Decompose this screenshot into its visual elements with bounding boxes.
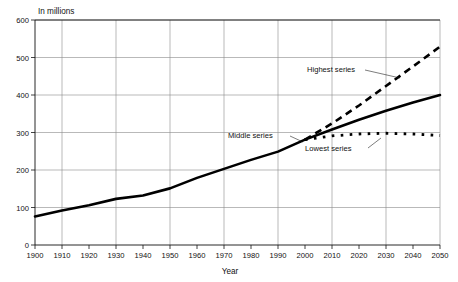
- x-tick-2010: 2010: [324, 251, 341, 260]
- x-tick-2050: 2050: [432, 251, 449, 260]
- y-tick-300: 300: [16, 129, 29, 138]
- x-tick-2000: 2000: [297, 251, 314, 260]
- x-tick-1930: 1930: [108, 251, 125, 260]
- x-tick-1970: 1970: [216, 251, 233, 260]
- unit-label: In millions: [38, 7, 74, 16]
- annotation-lowest-series: Lowest series: [305, 144, 352, 153]
- chart-background: [0, 0, 458, 282]
- x-tick-1960: 1960: [189, 251, 206, 260]
- x-tick-1980: 1980: [243, 251, 260, 260]
- x-tick-1990: 1990: [270, 251, 287, 260]
- x-tick-2030: 2030: [378, 251, 395, 260]
- y-tick-400: 400: [16, 91, 29, 100]
- population-projection-chart: In millions 600 500 400 300 200 100 0 19…: [0, 0, 458, 282]
- x-tick-2020: 2020: [351, 251, 368, 260]
- x-tick-1950: 1950: [162, 251, 179, 260]
- y-tick-600: 600: [16, 16, 29, 25]
- annotation-highest-series: Highest series: [307, 65, 355, 74]
- x-axis-title: Year: [222, 267, 239, 276]
- x-tick-1910: 1910: [54, 251, 71, 260]
- x-tick-1920: 1920: [81, 251, 98, 260]
- annotation-middle-series: Middle series: [228, 131, 273, 140]
- x-tick-1940: 1940: [135, 251, 152, 260]
- y-tick-0: 0: [25, 241, 29, 250]
- x-tick-2040: 2040: [405, 251, 422, 260]
- y-tick-500: 500: [16, 54, 29, 63]
- y-tick-100: 100: [16, 204, 29, 213]
- y-tick-200: 200: [16, 166, 29, 175]
- x-tick-1900: 1900: [27, 251, 44, 260]
